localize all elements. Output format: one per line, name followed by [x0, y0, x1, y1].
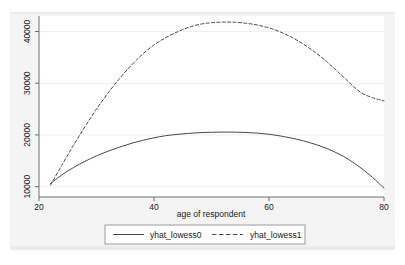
- x-tick-label: 20: [34, 202, 44, 212]
- x-tick-label: 40: [149, 202, 159, 212]
- plot-area-background: [39, 16, 384, 197]
- x-axis-tick-marks: [39, 197, 384, 201]
- legend-label-0: yhat_lowess0: [150, 230, 202, 240]
- x-tick-label: 60: [264, 202, 274, 212]
- line-chart-plot: 10000200003000040000 20406080 age of res…: [0, 0, 405, 265]
- y-axis-tick-labels: 10000200003000040000: [22, 19, 32, 198]
- y-tick-label: 10000: [22, 175, 32, 199]
- y-tick-label: 20000: [22, 123, 32, 147]
- y-tick-label: 30000: [22, 71, 32, 95]
- x-axis-title: age of respondent: [177, 209, 246, 219]
- y-axis-tick-marks: [35, 32, 39, 187]
- legend-label-1: yhat_lowess1: [250, 230, 302, 240]
- y-tick-label: 40000: [22, 19, 32, 43]
- x-tick-label: 80: [379, 202, 389, 212]
- legend: yhat_lowess0 yhat_lowess1: [105, 225, 305, 244]
- chart-figure: 10000200003000040000 20406080 age of res…: [0, 0, 405, 265]
